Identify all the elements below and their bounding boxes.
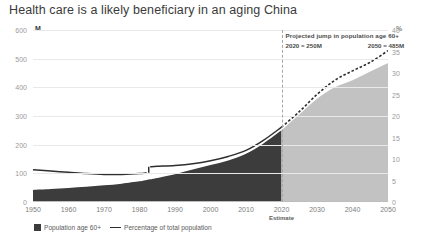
gridline [33, 87, 388, 88]
right-axis-tick: 35 [392, 48, 414, 55]
left-axis-tick: 500 [5, 55, 27, 62]
left-axis-tick: 100 [5, 170, 27, 177]
gridline [33, 59, 388, 60]
annotation-headline: Projected jump in population age 60+ [286, 32, 405, 39]
legend-label-population: Population age 60+ [44, 224, 101, 231]
right-axis-tick: 5 [392, 177, 414, 184]
x-axis-tick: 2000 [203, 206, 219, 213]
left-axis-tick: 200 [5, 141, 27, 148]
x-axis-tick: 1990 [167, 206, 183, 213]
forecast-divider [282, 30, 283, 202]
plot-area [33, 30, 388, 202]
x-axis-tick: 2010 [238, 206, 254, 213]
annotation-value-2050: 2050 = 485M [368, 42, 404, 49]
left-axis-tick: 300 [5, 113, 27, 120]
forecast-annotation: Projected jump in population age 60+ 202… [286, 32, 405, 49]
x-axis-tick: 2020 [274, 206, 290, 213]
area-swatch-icon [34, 224, 41, 231]
gridline [33, 116, 388, 117]
right-axis-tick: 25 [392, 91, 414, 98]
x-axis-tick: 1960 [61, 206, 77, 213]
right-axis-tick: 20 [392, 113, 414, 120]
left-axis-tick: 0 [5, 199, 27, 206]
annotation-values: 2020 = 250M2050 = 485M [286, 42, 405, 49]
right-axis-tick: 0 [392, 199, 414, 206]
legend-item-percentage: Percentage of total population [110, 224, 212, 231]
left-axis-tick: 400 [5, 84, 27, 91]
x-axis-tick: 2040 [345, 206, 361, 213]
x-axis-tick: 2030 [309, 206, 325, 213]
estimate-label: Estimate [269, 215, 294, 221]
x-axis-tick: 2050 [380, 206, 396, 213]
chart-legend: Population age 60+ Percentage of total p… [34, 224, 212, 231]
right-axis-tick: 30 [392, 70, 414, 77]
right-axis-tick: 10 [392, 156, 414, 163]
left-axis-tick: 600 [5, 27, 27, 34]
annotation-value-2020: 2020 = 250M [286, 42, 322, 49]
area-forecast [282, 63, 389, 202]
right-axis-tick: 15 [392, 134, 414, 141]
x-axis-tick: 1980 [132, 206, 148, 213]
x-axis-tick: 1950 [25, 206, 41, 213]
legend-item-population: Population age 60+ [34, 224, 101, 231]
gridline [33, 30, 388, 31]
gridline [33, 173, 388, 174]
legend-label-percentage: Percentage of total population [124, 224, 212, 231]
line-swatch-icon [110, 227, 121, 228]
axis-baseline [33, 201, 388, 202]
gridline [33, 145, 388, 146]
x-axis-tick: 1970 [96, 206, 112, 213]
page-title: Health care is a likely beneficiary in a… [9, 3, 297, 17]
chart-container: Health care is a likely beneficiary in a… [0, 0, 426, 242]
